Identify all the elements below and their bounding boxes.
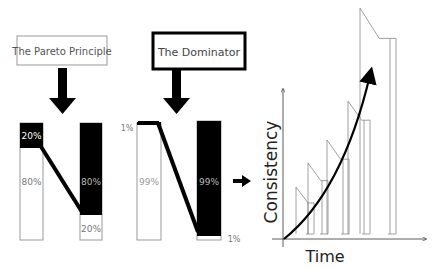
step-panel [327,140,349,234]
growth-chart: Consistency Time [261,8,426,266]
step-panels [296,8,396,234]
pareto-left-bar: 20% 80% [20,123,43,240]
pareto-right-top-label: 80% [81,177,101,187]
step-panel [308,163,328,234]
step-panel [348,101,370,234]
pareto-connector-line [40,145,82,212]
dominator-title-box: The Dominator [153,33,245,69]
step-panel [360,8,396,234]
x-axis-label: Time [304,247,344,266]
pareto-right-bar: 80% 20% [80,123,102,240]
dominator-left-bottom-label: 99% [139,177,159,187]
dominator-right-top-label: 99% [199,177,219,187]
right-arrow-icon [233,175,251,187]
dominator-title: The Dominator [157,46,241,59]
pareto-title: The Pareto Principle [11,46,111,57]
pareto-right-bar-top [80,123,102,215]
diagram-canvas: The Pareto Principle 20% 80% 80% 20% The… [0,0,443,269]
dominator-left-bar: 1% 99% [121,122,161,240]
pareto-down-arrow-icon [49,68,76,114]
dominator-down-arrow-icon [163,68,190,114]
dominator-right-bottom-label: 1% [228,235,241,244]
pareto-left-top-label: 20% [21,131,41,141]
dominator-left-top-label: 1% [121,124,134,133]
dominator-connector-diagonal [158,123,198,232]
pareto-left-bottom-label: 80% [21,177,41,187]
pareto-title-box: The Pareto Principle [11,36,111,65]
y-axis-label: Consistency [261,121,281,224]
pareto-right-bottom-label: 20% [81,224,101,234]
